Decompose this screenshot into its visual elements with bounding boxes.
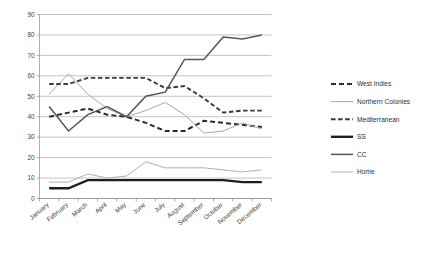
chart-legend: West IndiesNorthern ColoniesMediterranea… <box>331 80 411 175</box>
y-axis-tick-labels: 0102030405060708090 <box>27 11 35 202</box>
series-line-mediterranean <box>49 78 262 113</box>
x-axis-tick-label: May <box>113 200 128 214</box>
legend-label-ss: SS <box>357 133 366 140</box>
y-axis-tick-label: 30 <box>27 133 35 140</box>
y-axis-tick-label: 70 <box>27 52 35 59</box>
x-axis-tick-label: June <box>131 201 146 216</box>
legend-label-home: Home <box>357 168 375 175</box>
y-axis-tick-label: 90 <box>27 11 35 18</box>
line-chart: 0102030405060708090 JanuaryFebruaryMarch… <box>0 0 433 255</box>
x-axis-tick-label: February <box>45 200 70 223</box>
x-axis-tick-label: July <box>153 200 167 214</box>
legend-label-cc: CC <box>357 151 367 158</box>
y-axis-tick-label: 80 <box>27 31 35 38</box>
y-axis-tick-label: 40 <box>27 113 35 120</box>
legend-label-west-indies: West Indies <box>357 80 392 87</box>
y-axis-tick-label: 0 <box>31 195 35 202</box>
x-axis-tick-label: March <box>70 201 88 218</box>
y-axis-tick-label: 60 <box>27 72 35 79</box>
data-series-group <box>49 35 262 188</box>
y-axis-tick-label: 20 <box>27 154 35 161</box>
x-axis-tick-labels: JanuaryFebruaryMarchAprilMayJuneJulyAugu… <box>28 200 263 227</box>
chart-canvas: 0102030405060708090 JanuaryFebruaryMarch… <box>0 0 433 255</box>
y-axis-tick-label: 10 <box>27 174 35 181</box>
y-axis-tick-label: 50 <box>27 93 35 100</box>
axes-group <box>37 15 272 202</box>
legend-label-northern-colonies: Northern Colonies <box>357 98 411 105</box>
x-axis-tick-label: April <box>94 201 109 215</box>
legend-label-mediterranean: Mediterranean <box>357 116 400 123</box>
series-line-ss <box>49 180 262 188</box>
